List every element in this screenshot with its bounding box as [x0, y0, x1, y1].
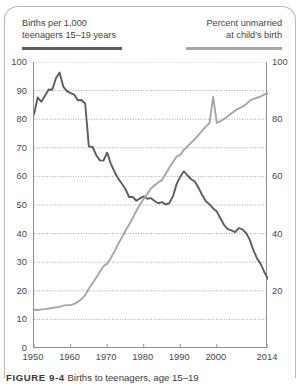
y-tick-right: 40 — [272, 228, 298, 239]
y-tick-left: 100 — [3, 56, 27, 67]
y-tick-right: 60 — [272, 170, 298, 181]
figure-caption: FIGURE 9-4 Births to teenagers, age 15–1… — [6, 372, 298, 383]
y-tick-left: 50 — [3, 199, 27, 210]
legend-left-swatch — [22, 47, 122, 50]
figure-container: Births per 1,000 teenagers 15–19 years P… — [0, 0, 304, 386]
y-tick-left: 10 — [3, 313, 27, 324]
x-tick-label: 1970 — [86, 351, 126, 362]
y-tick-left: 70 — [3, 142, 27, 153]
legend-right-swatch — [186, 47, 282, 50]
y-tick-left: 90 — [3, 85, 27, 96]
series-line-1 — [34, 73, 268, 279]
caption-text: Births to teenagers, age 15–19 — [67, 372, 198, 383]
y-tick-right: 80 — [272, 113, 298, 124]
chart-legend: Births per 1,000 teenagers 15–19 years P… — [0, 18, 304, 66]
y-tick-left: 30 — [3, 256, 27, 267]
chart-svg — [34, 62, 268, 348]
plot-area — [33, 62, 267, 348]
y-tick-right: 100 — [272, 56, 298, 67]
legend-left-line1: Births per 1,000 — [22, 18, 87, 28]
legend-left-line2: teenagers 15–19 years — [22, 30, 116, 40]
legend-right-line2: at child's birth — [226, 30, 282, 40]
x-tick-label: 1990 — [159, 351, 199, 362]
x-tick-label: 1960 — [50, 351, 90, 362]
legend-right-line1: Percent unmarried — [206, 18, 282, 28]
series-line-2 — [34, 93, 268, 310]
x-tick-label: 2000 — [196, 351, 236, 362]
y-tick-left: 20 — [3, 285, 27, 296]
y-tick-left: 80 — [3, 113, 27, 124]
y-tick-left: 40 — [3, 228, 27, 239]
x-tick-label: 2014 — [247, 351, 287, 362]
x-tick-label: 1950 — [13, 351, 53, 362]
y-tick-left: 60 — [3, 170, 27, 181]
caption-figure-number: FIGURE 9-4 — [6, 372, 65, 383]
legend-left: Births per 1,000 teenagers 15–19 years — [22, 18, 116, 41]
legend-right: Percent unmarried at child's birth — [206, 18, 282, 41]
y-tick-right: 20 — [272, 285, 298, 296]
x-tick-label: 1980 — [123, 351, 163, 362]
